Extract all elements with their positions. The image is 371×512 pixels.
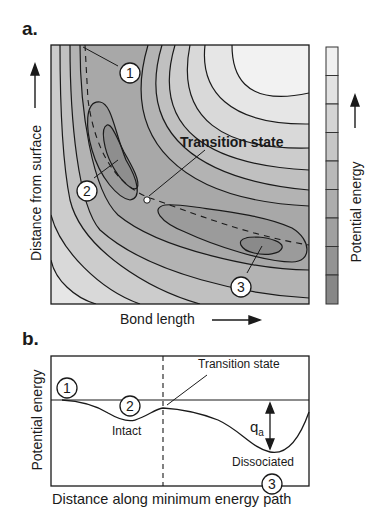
dissociated-label: Dissociated [232, 455, 294, 469]
y-axis-arrow-a [31, 64, 39, 108]
transition-state-label-a: Transition state [180, 134, 283, 150]
colorbar-label: Potential energy [348, 152, 364, 272]
transition-state-point [144, 197, 150, 203]
marker-1-a-label: 1 [125, 65, 135, 81]
x-axis-label-b: Distance along minimum energy path [52, 491, 291, 507]
colorbar-arrow [351, 95, 359, 128]
diagram-canvas [0, 0, 371, 512]
marker-3-a-label: 3 [236, 279, 246, 295]
qa-arrow [266, 403, 274, 449]
marker-2-b-label: 2 [125, 398, 135, 414]
contour-plot [51, 45, 309, 304]
colorbar [326, 47, 338, 304]
y-axis-label-b: Potential energy [29, 360, 45, 480]
x-axis-label-a: Bond length [120, 311, 195, 327]
x-axis-arrow-a [212, 316, 260, 324]
qa-subscript: a [258, 427, 264, 438]
marker-1-b-label: 1 [62, 380, 72, 396]
marker-3-b-label: 3 [267, 476, 277, 492]
marker-2-a-label: 2 [82, 183, 92, 199]
transition-state-label-b: Transition state [198, 357, 280, 371]
intact-label: Intact [112, 424, 141, 438]
y-axis-label-a: Distance from surface [28, 113, 44, 273]
qa-label: qa [250, 418, 264, 438]
